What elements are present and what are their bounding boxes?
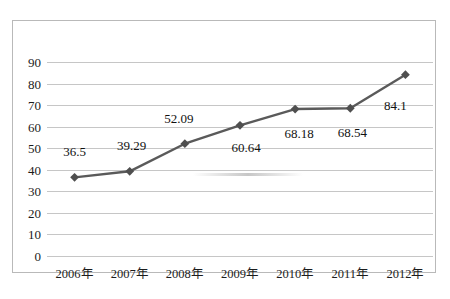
y-axis-tick-label: 10 (28, 228, 41, 241)
x-axis-tick-label: 2008年 (166, 268, 204, 281)
data-point-label: 84.1 (384, 98, 407, 111)
data-point-label: 39.29 (117, 139, 146, 152)
x-axis-tick-label: 2012年 (386, 268, 424, 281)
line-series (47, 62, 433, 256)
y-axis-tick-label: 90 (28, 56, 41, 69)
y-axis-tick-label: 50 (28, 142, 41, 155)
gridline (47, 256, 433, 257)
chart-frame: 0102030405060708090 2006年2007年2008年2009年… (12, 20, 436, 273)
y-axis-tick-label: 40 (28, 163, 41, 176)
data-point-label: 60.64 (231, 141, 260, 154)
y-axis-tick-label: 20 (28, 206, 41, 219)
x-axis-tick-label: 2009年 (221, 268, 259, 281)
x-axis-tick-label: 2006年 (56, 268, 94, 281)
data-point-marker (125, 167, 134, 176)
data-point-marker (180, 139, 189, 148)
data-point-marker (70, 173, 79, 182)
y-axis-tick-label: 60 (28, 120, 41, 133)
data-point-label: 68.18 (285, 127, 314, 140)
x-axis-tick-label: 2011年 (332, 268, 370, 281)
data-point-marker (291, 105, 300, 114)
y-axis-tick-label: 0 (35, 250, 42, 263)
x-axis-tick-label: 2010年 (276, 268, 314, 281)
data-point-label: 68.54 (338, 126, 367, 139)
y-axis-tick-label: 30 (28, 185, 41, 198)
data-point-marker (236, 121, 245, 130)
y-axis-tick-label: 80 (28, 77, 41, 90)
plot-area: 0102030405060708090 2006年2007年2008年2009年… (47, 62, 433, 256)
y-axis-tick-label: 70 (28, 99, 41, 112)
data-point-label: 52.09 (164, 111, 193, 124)
data-point-label: 36.5 (63, 145, 86, 158)
x-axis-tick-label: 2007年 (111, 268, 149, 281)
